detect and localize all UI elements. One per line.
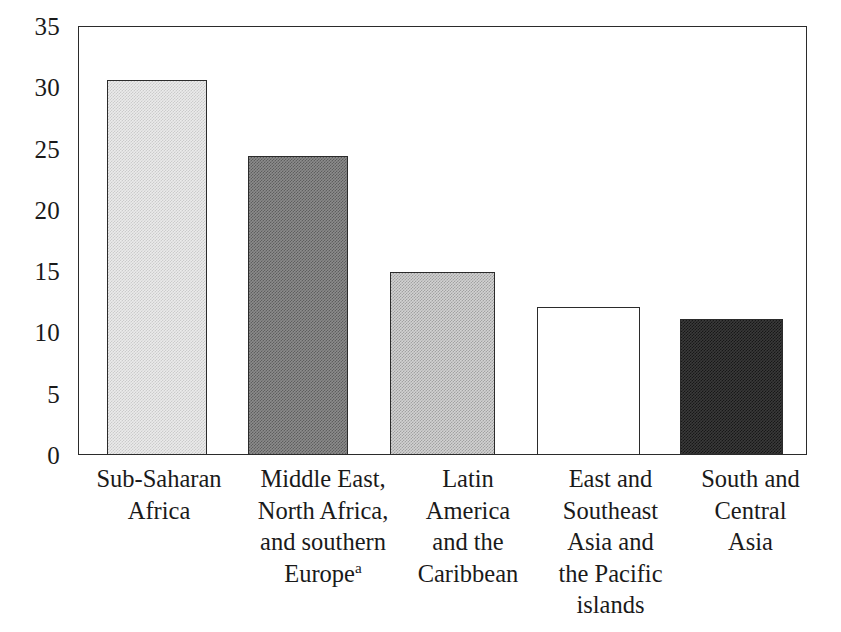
bars-group [78,26,807,455]
bar-1 [107,80,207,455]
category-label-1: Sub-SaharanAfrica [69,463,249,526]
category-label-line: North Africa, [233,495,413,527]
y-tick-label-25: 25 [34,136,60,161]
category-label-line: and the [388,526,548,558]
bar-3 [390,272,495,455]
category-label-line: and southern [233,526,413,558]
category-label-line: Sub-Saharan [69,463,249,495]
y-tick-label-0: 0 [47,443,60,468]
y-tick-label-30: 30 [34,75,60,100]
y-tick-label-35: 35 [34,14,60,39]
y-tick-label-20: 20 [34,197,60,222]
category-label-line: America [388,495,548,527]
category-label-line: Middle East, [233,463,413,495]
bar-5 [680,319,783,455]
bar-2 [248,156,348,455]
category-label-line: the Pacific [528,558,693,590]
y-tick-label-5: 5 [47,381,60,406]
category-label-line: South and [668,463,833,495]
category-label-line: islands [528,589,693,621]
category-label-line: Latin [388,463,548,495]
y-tick-label-15: 15 [34,259,60,284]
y-axis: 05101520253035 [0,26,78,455]
x-axis-category-labels: Sub-SaharanAfricaMiddle East,North Afric… [78,463,807,628]
category-label-2: Middle East,North Africa,and southernEur… [233,463,413,589]
category-label-line: Caribbean [388,558,548,590]
footnote-marker: a [355,559,362,576]
y-tick-label-10: 10 [34,320,60,345]
category-label-line: Asia [668,526,833,558]
category-label-line: Central [668,495,833,527]
category-label-3: LatinAmericaand theCaribbean [388,463,548,589]
bar-chart-figure: 05101520253035 Sub-SaharanAfricaMiddle E… [0,0,841,632]
category-label-line: Africa [69,495,249,527]
category-label-line: Europea [233,558,413,590]
bar-4 [537,307,640,455]
category-label-5: South andCentralAsia [668,463,833,558]
